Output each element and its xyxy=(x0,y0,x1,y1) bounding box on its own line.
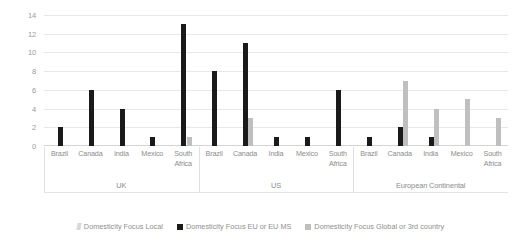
bar-eu-uk-canada[interactable] xyxy=(89,90,94,146)
bar-global-european-continental-south-africa[interactable] xyxy=(496,118,501,146)
legend-item-eu[interactable]: Domesticity Focus EU or EU MS xyxy=(177,222,291,231)
y-tick-14: 14 xyxy=(8,11,36,20)
bar-eu-uk-mexico[interactable] xyxy=(150,137,155,146)
bar-group xyxy=(291,15,322,146)
legend-item-global[interactable]: Domesticity Focus Global or 3rd country xyxy=(305,222,444,231)
group-label-european-continental: European Continental xyxy=(353,181,508,190)
local-swatch-icon xyxy=(76,223,81,230)
group-separator xyxy=(353,147,354,193)
y-axis-labels: 14 12 10 8 6 4 2 0 xyxy=(8,15,38,146)
bars-layer xyxy=(44,15,508,146)
group-separator xyxy=(199,147,200,193)
eu-swatch-icon xyxy=(177,224,183,230)
bar-eu-us-india[interactable] xyxy=(274,137,279,146)
bar-group xyxy=(75,15,106,146)
plot-area xyxy=(44,15,508,146)
bar-group xyxy=(446,15,477,146)
legend-label-global: Domesticity Focus Global or 3rd country xyxy=(314,222,444,231)
bar-group xyxy=(322,15,353,146)
bar-group xyxy=(168,15,199,146)
bar-group xyxy=(384,15,415,146)
global-swatch-icon xyxy=(305,224,311,230)
bar-global-us-canada[interactable] xyxy=(248,118,253,146)
y-tick-6: 6 xyxy=(8,85,36,94)
bar-chart: 14 12 10 8 6 4 2 0 BrazilCanadaIndiaMexi… xyxy=(0,0,521,242)
chart-legend: Domesticity Focus Local Domesticity Focu… xyxy=(0,222,521,231)
x-axis-group-labels: UKUSEuropean Continental xyxy=(44,147,508,193)
bar-group xyxy=(106,15,137,146)
bar-eu-us-south-africa[interactable] xyxy=(336,90,341,146)
y-tick-4: 4 xyxy=(8,104,36,113)
group-label-uk: UK xyxy=(44,181,199,190)
legend-item-local[interactable]: Domesticity Focus Local xyxy=(77,222,163,231)
legend-label-local: Domesticity Focus Local xyxy=(84,222,163,231)
bar-eu-us-mexico[interactable] xyxy=(305,137,310,146)
bar-group xyxy=(44,15,75,146)
group-label-us: US xyxy=(199,181,354,190)
bar-eu-uk-india[interactable] xyxy=(120,109,125,146)
bar-group xyxy=(137,15,168,146)
y-tick-0: 0 xyxy=(8,142,36,151)
bar-global-european-continental-canada[interactable] xyxy=(403,81,408,147)
bar-group xyxy=(199,15,230,146)
bar-group xyxy=(230,15,261,146)
group-separator-start xyxy=(44,147,45,193)
bar-global-european-continental-mexico[interactable] xyxy=(465,99,470,146)
y-tick-8: 8 xyxy=(8,67,36,76)
bar-global-uk-south-africa[interactable] xyxy=(187,137,192,146)
bar-eu-uk-brazil[interactable] xyxy=(58,127,63,146)
bar-global-european-continental-india[interactable] xyxy=(434,109,439,146)
bar-group xyxy=(415,15,446,146)
bar-eu-uk-south-africa[interactable] xyxy=(181,24,186,146)
bar-group xyxy=(353,15,384,146)
y-tick-10: 10 xyxy=(8,48,36,57)
legend-label-eu: Domesticity Focus EU or EU MS xyxy=(186,222,291,231)
bar-eu-european-continental-brazil[interactable] xyxy=(367,137,372,146)
bar-group xyxy=(477,15,508,146)
group-axis-underline xyxy=(44,192,508,193)
bar-eu-us-brazil[interactable] xyxy=(212,71,217,146)
y-tick-12: 12 xyxy=(8,29,36,38)
bar-group xyxy=(261,15,292,146)
y-tick-2: 2 xyxy=(8,123,36,132)
